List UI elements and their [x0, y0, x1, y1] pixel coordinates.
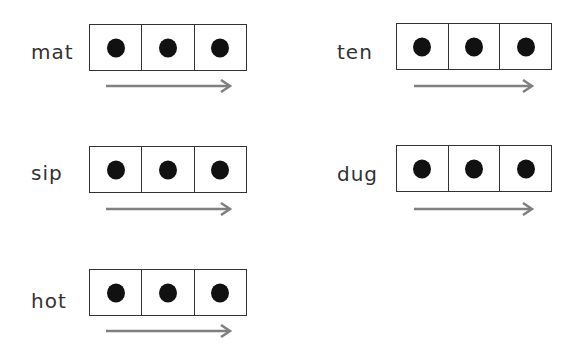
sound-box [397, 24, 449, 69]
sound-box [397, 146, 449, 191]
dot-icon [159, 38, 177, 57]
word-label: hot [31, 291, 67, 311]
sound-box [142, 147, 194, 192]
arrow-right-icon [105, 79, 233, 93]
sound-boxes [89, 269, 247, 316]
sound-box [195, 25, 246, 70]
sound-box [500, 24, 551, 69]
word-label: ten [337, 42, 373, 62]
arrow-right-icon [413, 202, 535, 216]
dot-icon [107, 160, 125, 179]
arrow-right-icon [413, 79, 535, 93]
dot-icon [107, 38, 125, 57]
dot-icon [211, 38, 229, 57]
sound-box [195, 147, 246, 192]
dot-icon [413, 159, 431, 178]
dot-icon [465, 37, 483, 56]
word-label: sip [31, 163, 63, 183]
sound-box [90, 270, 142, 315]
word-label: mat [31, 42, 74, 62]
sound-box [195, 270, 246, 315]
dot-icon [159, 283, 177, 302]
sound-box [142, 270, 194, 315]
sound-boxes [89, 24, 247, 71]
sound-box [449, 24, 501, 69]
sound-box [90, 147, 142, 192]
sound-box [142, 25, 194, 70]
sound-box [449, 146, 501, 191]
sound-boxes [396, 23, 552, 70]
dot-icon [413, 37, 431, 56]
sound-box [500, 146, 551, 191]
sound-box [90, 25, 142, 70]
dot-icon [517, 37, 535, 56]
dot-icon [211, 160, 229, 179]
arrow-right-icon [105, 324, 233, 338]
dot-icon [517, 159, 535, 178]
sound-boxes [396, 145, 552, 192]
arrow-right-icon [105, 202, 233, 216]
dot-icon [211, 283, 229, 302]
dot-icon [107, 283, 125, 302]
dot-icon [159, 160, 177, 179]
word-label: dug [337, 164, 378, 184]
sound-boxes [89, 146, 247, 193]
dot-icon [465, 159, 483, 178]
